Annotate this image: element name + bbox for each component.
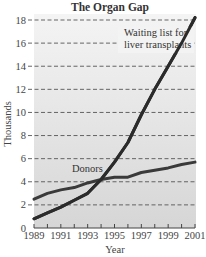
x-tick-label-1995: 1995	[104, 230, 125, 241]
y-tick-label-10: 10	[16, 107, 27, 118]
annotation-waiting-list-for-liver-transplants-line-0: Waiting list for	[124, 27, 188, 38]
x-tick-label-1991: 1991	[50, 230, 71, 241]
x-axis-title: Year	[105, 244, 125, 255]
y-tick-label-16: 16	[16, 38, 27, 49]
organ-gap-chart: The Organ Gap 024681012141618 1989199119…	[0, 0, 205, 257]
y-tick-label-18: 18	[16, 15, 27, 26]
x-tick-labels: 1989199119931995199719992001	[24, 230, 206, 241]
annotation-donors-line-0: Donors	[72, 163, 103, 174]
chart-title: The Organ Gap	[71, 1, 149, 14]
y-tick-label-6: 6	[21, 153, 26, 164]
x-tick-label-1989: 1989	[24, 230, 45, 241]
x-tick-label-1999: 1999	[158, 230, 179, 241]
y-axis-title: Thousands	[2, 101, 13, 147]
x-tick-label-2001: 2001	[185, 230, 206, 241]
y-tick-label-8: 8	[21, 130, 26, 141]
y-tick-label-2: 2	[21, 199, 26, 210]
y-tick-labels: 024681012141618	[16, 15, 27, 234]
y-tick-label-12: 12	[16, 84, 27, 95]
y-tick-label-4: 4	[21, 176, 27, 187]
x-tick-label-1993: 1993	[77, 230, 98, 241]
y-tick-label-14: 14	[16, 61, 27, 72]
x-tick-label-1997: 1997	[131, 230, 152, 241]
